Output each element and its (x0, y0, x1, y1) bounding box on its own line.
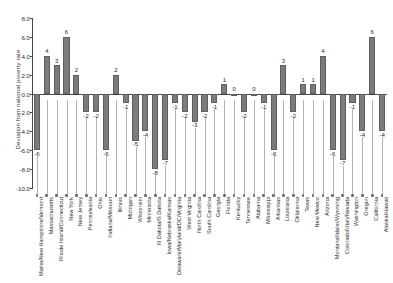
leader-line (234, 100, 235, 194)
x-category-label: Colorado/Utah/Nevada (345, 197, 351, 254)
leader-line (343, 166, 344, 194)
leader-line (47, 100, 48, 194)
x-category-label: Indiana/Missouri (108, 197, 114, 238)
leader-line (303, 100, 304, 194)
x-category-label: Minnesota (147, 197, 153, 223)
leader-line (352, 109, 353, 194)
leader-line (254, 100, 255, 194)
leader-line (86, 118, 87, 194)
leader-line (372, 100, 373, 194)
leader-line (362, 137, 363, 194)
leader-line (116, 100, 117, 194)
x-category-label: New Mexico (315, 197, 321, 227)
x-category-label: Texas (305, 197, 311, 212)
leader-line (96, 118, 97, 194)
leader-line (224, 100, 225, 194)
x-category-label: Iowa/Nebraska/Kansas (167, 197, 173, 255)
y-tick-label: -4.0 (19, 128, 30, 135)
leader-line (264, 109, 265, 194)
x-category-label: Alaska/Hawaii (384, 197, 390, 232)
leader-line (106, 156, 107, 194)
leader-line (244, 118, 245, 194)
leader-line (145, 137, 146, 194)
leader-line (76, 100, 77, 194)
leader-line (165, 166, 166, 194)
x-category-label: N Dakota/S Dakota (157, 197, 163, 245)
leader-line (214, 109, 215, 194)
x-category-label: California (374, 197, 380, 221)
x-category-label: Illinois (118, 197, 124, 213)
poverty-deviation-bar-chart: Deviation from national poverty rate 8.0… (0, 0, 393, 283)
leader-line (175, 109, 176, 194)
x-category-label: Washington (354, 197, 360, 226)
leader-line (57, 100, 58, 194)
x-category-label: Ohio (98, 197, 104, 209)
x-category-label: Rhode Island/Connecticut (59, 197, 65, 261)
x-category-label: Massachusetts (49, 197, 55, 234)
x-category-label: Oklahoma (295, 197, 301, 223)
y-tick-label: -8.0 (19, 166, 30, 173)
category-leader-lines (32, 18, 387, 198)
x-axis-category-labels: Maine/New Hampshire/VermontMassachusetts… (32, 196, 387, 283)
x-category-label: Mississippi (266, 197, 272, 224)
x-category-label: Pennsylvania (88, 197, 94, 230)
x-category-label: Kentucky (236, 197, 242, 220)
leader-line (155, 175, 156, 194)
x-category-label: South Carolina (207, 197, 213, 234)
leader-line (67, 100, 68, 194)
leader-line (333, 156, 334, 194)
x-category-label: Louisiana (285, 197, 291, 221)
x-category-label: Arizona (325, 197, 331, 216)
x-category-label: Florida (226, 197, 232, 214)
leader-line (323, 100, 324, 194)
x-category-label: Arkansas (276, 197, 282, 220)
leader-line (195, 128, 196, 194)
leader-line (37, 156, 38, 194)
leader-line (126, 109, 127, 194)
leader-line (293, 118, 294, 194)
x-category-label: Georgia (216, 197, 222, 217)
y-axis-tick-labels: 8.06.04.02.00.0-2.0-4.0-6.0-8.0-10.0 (8, 18, 30, 188)
y-tick-label: -2.0 (19, 109, 30, 116)
x-category-label: West Virginia (187, 197, 193, 230)
x-category-label: Wisconsin (138, 197, 144, 223)
leader-line (313, 100, 314, 194)
leader-line (185, 118, 186, 194)
y-tick-label: -10.0 (16, 185, 30, 192)
x-category-label: Delaware/Maryland/DC/Virginia (177, 197, 183, 275)
x-category-label: Oregon (364, 197, 370, 216)
x-category-label: Montana/Idaho/Wyoming (335, 197, 341, 259)
leader-line (274, 156, 275, 194)
leader-line (205, 118, 206, 194)
x-category-label: New Jersey (78, 197, 84, 226)
x-category-label: New York (69, 197, 75, 221)
x-category-label: Tennessee (246, 197, 252, 224)
x-category-label: Maine/New Hampshire/Vermont (39, 197, 45, 276)
leader-line (283, 100, 284, 194)
x-category-label: Alabama (256, 197, 262, 219)
leader-line (382, 137, 383, 194)
x-category-label: North Carolina (197, 197, 203, 233)
leader-line (136, 147, 137, 194)
x-category-label: Michigan (128, 197, 134, 219)
